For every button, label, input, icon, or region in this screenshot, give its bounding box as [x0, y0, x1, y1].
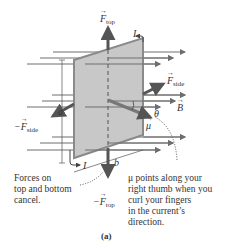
label-theta: θ [154, 108, 159, 119]
label-dim-a: a [58, 106, 63, 117]
caption-forces-cancel: Forces on top and bottom cancel. [14, 173, 72, 206]
label-neg-f-top: −Ftop [93, 196, 115, 211]
label-neg-f-side: −Fside [14, 121, 38, 136]
current-loop-plate [74, 38, 143, 158]
label-dim-b: b [114, 157, 119, 168]
neg-f-side-arrow [53, 104, 74, 116]
label-mu: μ [146, 120, 151, 131]
label-b-field: B [177, 102, 183, 113]
label-current-bottom: I [83, 160, 86, 171]
figure-label: (a) [101, 231, 112, 241]
label-current-top: I [133, 28, 136, 39]
label-f-top: Ftop [100, 13, 115, 28]
caption-mu-direction: μ points along your right thumb when you… [128, 173, 212, 228]
f-side-arrow [143, 84, 163, 94]
label-f-side: Fside [167, 75, 184, 90]
